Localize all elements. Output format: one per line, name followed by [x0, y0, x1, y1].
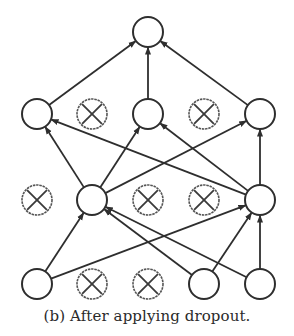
neuron-h1_5 [245, 185, 275, 215]
neuron-in_4 [189, 269, 219, 299]
dropout-network-diagram [0, 0, 294, 305]
dropped-neuron-h1_3 [133, 185, 163, 215]
edge-in_4-to-h1_2 [104, 209, 192, 275]
neuron-in_1 [22, 269, 52, 299]
neuron-h1_2 [77, 185, 107, 215]
neuron-out [133, 17, 163, 47]
dropped-neuron-h2_4 [189, 99, 219, 129]
neuron-in_5 [245, 269, 275, 299]
connections [45, 41, 260, 279]
neuron-h2_3 [133, 99, 163, 129]
edge-h2_5-to-out [161, 41, 248, 105]
dropped-neuron-h1_1 [22, 185, 52, 215]
dropped-neuron-in_2 [77, 269, 107, 299]
neuron-h2_1 [22, 99, 52, 129]
edge-in_5-to-h1_2 [106, 207, 247, 277]
edge-h1_2-to-h2_5 [105, 121, 246, 193]
edge-h2_1-to-out [49, 41, 135, 105]
edge-in_1-to-h1_2 [45, 213, 83, 271]
dropped-neuron-h2_2 [77, 99, 107, 129]
edge-h1_5-to-h2_3 [160, 123, 248, 190]
dropped-neuron-h1_4 [189, 185, 219, 215]
edge-h1_2-to-h2_1 [45, 127, 84, 187]
dropped-neuron-in_3 [133, 269, 163, 299]
figure-caption: (b) After applying dropout. [0, 307, 294, 325]
neuron-h2_5 [245, 99, 275, 129]
